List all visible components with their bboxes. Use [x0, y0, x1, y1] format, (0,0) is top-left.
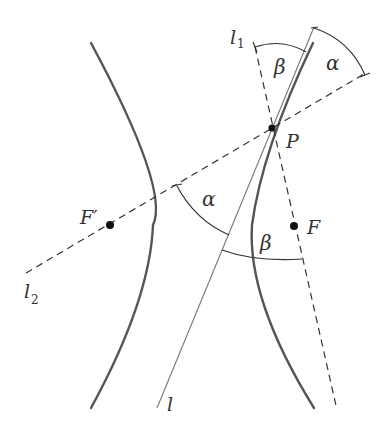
line-l2-dashed	[26, 74, 364, 273]
label-beta-bottom: β	[259, 231, 272, 255]
focus-F	[290, 222, 298, 230]
label-l2: l2	[24, 280, 39, 307]
focus-F-prime	[106, 221, 114, 229]
label-l1: l1	[230, 26, 245, 51]
tangent-line-l	[157, 27, 314, 408]
label-alpha-top: α	[326, 51, 340, 75]
hyperbola-diagram: l1 l2 l P F F′ β α α β	[0, 0, 389, 436]
point-P	[268, 124, 275, 131]
label-F: F	[306, 216, 321, 238]
label-tangent-l: l	[167, 393, 173, 415]
label-alpha-bottom: α	[202, 187, 216, 211]
label-P: P	[285, 130, 300, 152]
angle-arc-beta-top	[255, 43, 306, 52]
hyperbola-left-branch	[91, 43, 156, 408]
arc-tick	[311, 27, 318, 28]
label-F-prime: F′	[79, 206, 98, 228]
label-beta-top: β	[273, 55, 286, 79]
arc-tick	[172, 184, 182, 186]
hyperbola-right-branch	[252, 43, 314, 408]
